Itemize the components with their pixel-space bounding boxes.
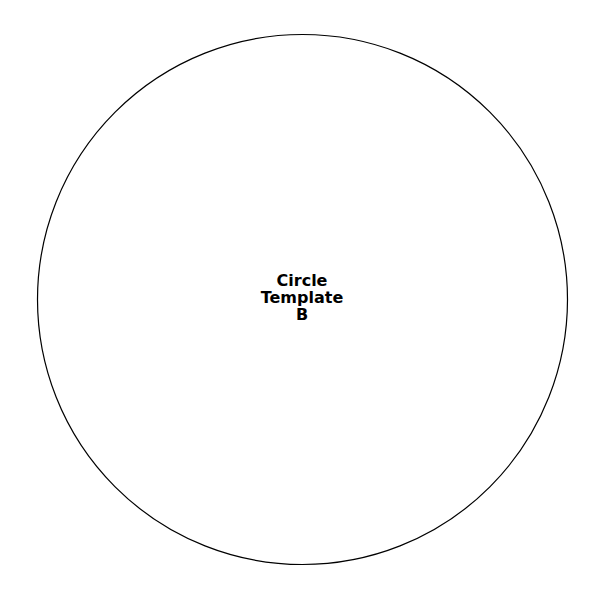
label-line-1: Circle — [202, 272, 402, 289]
label-line-3: B — [202, 306, 402, 323]
circle-label: Circle Template B — [202, 272, 402, 323]
label-line-2: Template — [202, 289, 402, 306]
